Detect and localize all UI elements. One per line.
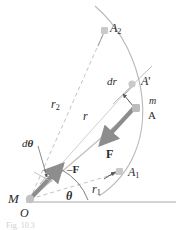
label-reaction-force: –F xyxy=(67,164,79,175)
point-marker-a2 xyxy=(101,27,108,34)
label-point-a-prime: A' xyxy=(141,75,151,87)
force-vector-arrow xyxy=(101,108,134,144)
label-force-f: F xyxy=(106,148,113,160)
label-particle-mass-m: m xyxy=(149,96,156,106)
point-marker-a-prime xyxy=(128,80,135,87)
label-angle-dtheta: dθ xyxy=(22,138,33,149)
figure-container: A2 r2 dr A' m A r F dθ –F A1 r1 θ M O Fi… xyxy=(0,0,179,230)
label-angle-theta: θ xyxy=(66,190,72,202)
label-dr: dr xyxy=(107,76,117,87)
label-origin-o: O xyxy=(20,207,29,219)
label-center-mass-m: M xyxy=(8,192,19,205)
label-radius-r: r xyxy=(83,110,88,122)
figure-caption: Fig. 10.3 xyxy=(6,221,35,230)
label-point-a: A xyxy=(148,110,156,121)
label-radius-r2: r2 xyxy=(51,98,60,112)
label-point-a1: A1 xyxy=(128,166,139,180)
point-marker-a xyxy=(132,104,140,112)
point-marker-m xyxy=(26,195,34,203)
point-marker-a1 xyxy=(116,168,123,175)
label-radius-r1: r1 xyxy=(92,183,101,197)
label-point-a2: A2 xyxy=(110,22,121,36)
a1-pointer-arrow xyxy=(104,172,115,179)
angle-dtheta-leader xyxy=(38,146,47,177)
